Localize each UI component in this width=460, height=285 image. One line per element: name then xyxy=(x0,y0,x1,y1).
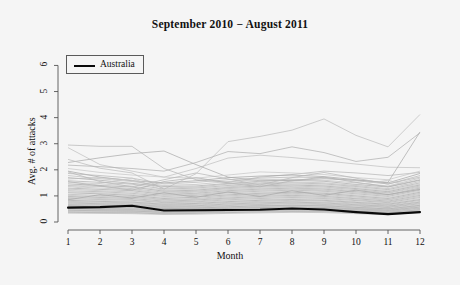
legend: Australia xyxy=(66,55,144,74)
y-tick-6: 6 xyxy=(39,57,49,71)
x-tick-12: 12 xyxy=(410,237,430,247)
y-tick-0: 0 xyxy=(39,214,49,228)
x-tick-5: 5 xyxy=(186,237,206,247)
series-lines xyxy=(68,114,420,214)
x-tick-10: 10 xyxy=(346,237,366,247)
x-axis-title: Month xyxy=(0,250,460,261)
legend-label-australia: Australia xyxy=(100,59,135,69)
legend-line-swatch xyxy=(74,65,95,67)
x-tick-7: 7 xyxy=(250,237,270,247)
x-tick-3: 3 xyxy=(122,237,142,247)
x-tick-1: 1 xyxy=(58,237,78,247)
y-tick-5: 5 xyxy=(39,84,49,98)
y-tick-3: 3 xyxy=(39,136,49,150)
x-tick-8: 8 xyxy=(282,237,302,247)
x-tick-9: 9 xyxy=(314,237,334,247)
y-tick-1: 1 xyxy=(39,188,49,202)
series-line xyxy=(68,114,420,189)
x-tick-4: 4 xyxy=(154,237,174,247)
y-axis-title: Avg. # of attacks xyxy=(26,117,37,185)
x-tick-6: 6 xyxy=(218,237,238,247)
chart-container: September 2010 − August 2011 Avg. # of a… xyxy=(0,0,460,285)
x-tick-2: 2 xyxy=(90,237,110,247)
y-tick-2: 2 xyxy=(39,162,49,176)
y-tick-4: 4 xyxy=(39,110,49,124)
x-tick-11: 11 xyxy=(378,237,398,247)
series-line xyxy=(68,148,420,177)
